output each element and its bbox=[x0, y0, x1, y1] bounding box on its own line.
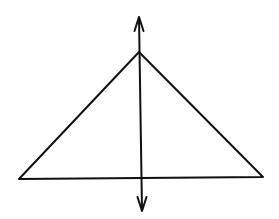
diagram-canvas: Triangle with vertical line of symmetry … bbox=[0, 0, 279, 219]
triangle-symmetry-diagram bbox=[0, 0, 279, 219]
symmetry-line bbox=[139, 18, 142, 210]
